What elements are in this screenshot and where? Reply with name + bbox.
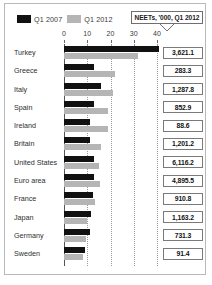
category-label: Spain (14, 103, 32, 112)
category-label: Greece (14, 66, 38, 75)
chart-row: Euro area4,895.5 (5, 172, 205, 190)
x-axis-tick-mark (111, 40, 112, 43)
legend-entry-q1-2007: Q1 2007 (17, 15, 62, 24)
value-box: 3,621.1 (163, 47, 203, 59)
chart-rows: Turkey3,621.1Greece283.3Italy1,287.8Spai… (5, 44, 205, 264)
bar-q1-2007 (64, 64, 94, 70)
bar-group (64, 192, 95, 205)
x-axis-tick-label: 0 (62, 30, 66, 37)
category-label: United States (14, 158, 57, 167)
value-box: 852.9 (163, 101, 203, 113)
bar-q1-2007 (64, 247, 85, 253)
bar-q1-2007 (64, 192, 93, 198)
bar-group (64, 46, 159, 59)
bar-q1-2007 (64, 46, 159, 52)
value-box: 1,163.2 (163, 211, 203, 223)
legend-entry-q1-2012: Q1 2012 (67, 15, 112, 24)
value-box: 6,116.2 (163, 156, 203, 168)
value-box: 910.8 (163, 193, 203, 205)
chart-row: Turkey3,621.1 (5, 44, 205, 62)
chart-row: Ireland88.6 (5, 117, 205, 135)
legend-swatch-dark-icon (17, 15, 31, 23)
chart-row: Germany731.3 (5, 227, 205, 245)
chart-row: United States6,116.2 (5, 154, 205, 172)
category-label: Britain (14, 139, 34, 148)
bar-q1-2012 (64, 108, 108, 114)
bar-group (64, 101, 108, 114)
bar-group (64, 211, 91, 224)
chart-row: Sweden91.4 (5, 245, 205, 263)
bar-q1-2007 (64, 83, 101, 89)
bar-group (64, 174, 100, 187)
legend-swatch-light-icon (67, 15, 81, 23)
category-label: France (14, 194, 36, 203)
x-axis-tick-label: 30 (130, 30, 138, 37)
value-box: 1,287.8 (163, 83, 203, 95)
value-box: 731.3 (163, 229, 203, 241)
chart-row: Spain852.9 (5, 99, 205, 117)
chart-plot-area: Turkey3,621.1Greece283.3Italy1,287.8Spai… (5, 44, 205, 270)
bar-q1-2007 (64, 156, 94, 162)
category-label: Japan (14, 213, 34, 222)
bar-q1-2012 (64, 126, 108, 132)
chart-card: Q1 2007 Q1 2012 NEETs, '000, Q1 2012 010… (4, 3, 206, 275)
x-axis-tick-mark (87, 40, 88, 43)
value-box: 1,201.2 (163, 138, 203, 150)
legend-label-q1-2012: Q1 2012 (84, 15, 112, 24)
category-label: Ireland (14, 121, 36, 130)
value-box: 91.4 (163, 248, 203, 260)
bar-q1-2007 (64, 101, 94, 107)
bar-q1-2007 (64, 229, 90, 235)
x-axis-tick-mark (134, 40, 135, 43)
bar-group (64, 83, 113, 96)
bar-q1-2012 (64, 53, 138, 59)
bar-q1-2012 (64, 236, 86, 242)
bar-q1-2012 (64, 254, 83, 260)
bar-q1-2007 (64, 137, 90, 143)
bar-q1-2012 (64, 199, 95, 205)
value-box: 4,895.5 (163, 175, 203, 187)
bar-group (64, 247, 85, 260)
bar-group (64, 156, 99, 169)
bar-group (64, 137, 101, 150)
category-label: Euro area (14, 176, 46, 185)
chart-row: Britain1,201.2 (5, 135, 205, 153)
callout-annotation: NEETs, '000, Q1 2012 (131, 11, 203, 24)
category-label: Sweden (14, 249, 40, 258)
chart-row: France910.8 (5, 190, 205, 208)
category-label: Italy (14, 85, 27, 94)
category-label: Turkey (14, 48, 36, 57)
bar-q1-2012 (64, 71, 115, 77)
chart-legend: Q1 2007 Q1 2012 (17, 13, 113, 25)
value-box: 88.6 (163, 120, 203, 132)
bar-q1-2012 (64, 144, 101, 150)
bar-q1-2007 (64, 174, 94, 180)
bar-q1-2012 (64, 181, 100, 187)
bar-q1-2007 (64, 119, 90, 125)
bar-group (64, 229, 90, 242)
bar-q1-2012 (64, 163, 99, 169)
x-axis-tick-label: 10 (83, 30, 91, 37)
chart-row: Italy1,287.8 (5, 81, 205, 99)
x-axis-tick-mark (64, 40, 65, 43)
bar-group (64, 64, 115, 77)
x-axis-tick-label: 40 (153, 30, 161, 37)
legend-label-q1-2007: Q1 2007 (34, 15, 62, 24)
value-box: 283.3 (163, 65, 203, 77)
x-axis-tick-labels: 010203040 (5, 30, 205, 39)
chart-row: Japan1,163.2 (5, 209, 205, 227)
x-axis-tick-label: 20 (107, 30, 115, 37)
bar-q1-2012 (64, 218, 87, 224)
x-axis-tick-mark (157, 40, 158, 43)
category-label: Germany (14, 231, 44, 240)
chart-row: Greece283.3 (5, 62, 205, 80)
bar-q1-2012 (64, 90, 113, 96)
bar-q1-2007 (64, 211, 91, 217)
bar-group (64, 119, 108, 132)
